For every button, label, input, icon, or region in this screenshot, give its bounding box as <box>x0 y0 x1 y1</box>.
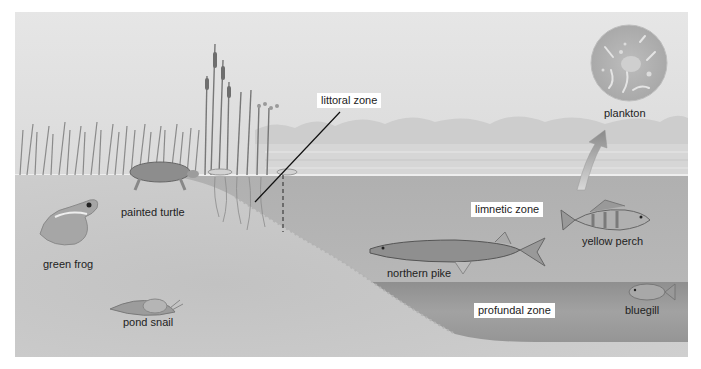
painted-turtle-label: painted turtle <box>121 206 185 219</box>
lake-zones-diagram: littoral zone limnetic zone profundal zo… <box>15 12 688 357</box>
profundal-zone-label: profundal zone <box>474 303 555 318</box>
pond-snail-label: pond snail <box>123 316 173 329</box>
littoral-zone-label: littoral zone <box>317 93 381 108</box>
plankton-label: plankton <box>604 107 646 120</box>
green-frog-label: green frog <box>43 258 93 271</box>
northern-pike-label: northern pike <box>387 267 451 280</box>
plankton-inset <box>591 25 667 101</box>
limnetic-zone-label: limnetic zone <box>471 202 543 217</box>
lily-pad <box>277 169 297 175</box>
lily-pad <box>208 169 232 175</box>
bluegill-label: bluegill <box>625 304 659 317</box>
lake-illustration <box>15 12 688 357</box>
yellow-perch-label: yellow perch <box>582 235 643 248</box>
